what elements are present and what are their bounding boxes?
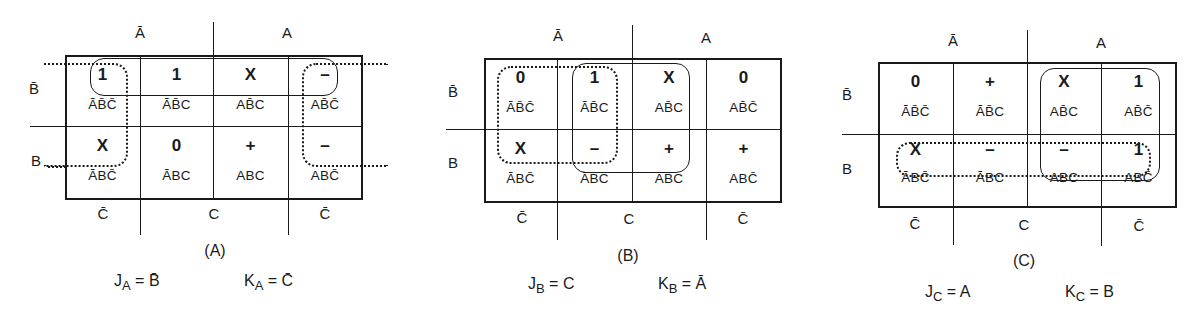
row-not-b-label: B̄: [827, 86, 867, 103]
eq-rhs: A: [960, 283, 971, 300]
equation-j: JC = A: [925, 283, 970, 304]
footer-not-c-left: C̄: [895, 215, 935, 232]
cell-r0c0: 0ĀB̄C̄: [878, 62, 953, 134]
header-a-label: A: [1081, 34, 1121, 51]
group-b: [896, 142, 1151, 177]
kmap-c: Ā A B̄ B 0ĀB̄C̄ +ĀB̄C XAB̄C 1AB̄C̄ XĀBC̄…: [0, 0, 1204, 319]
equation-k: KC = B: [1065, 283, 1114, 304]
footer-not-c-right: C̄: [1119, 217, 1159, 234]
header-divider: [1027, 30, 1028, 64]
row-b-label: B: [827, 160, 867, 177]
eq-lhs: J: [925, 283, 933, 300]
cell-value: 0: [878, 72, 953, 92]
cell-value: +: [953, 72, 1027, 92]
footer-c: C: [1004, 216, 1044, 233]
row-divider-ext: [842, 134, 878, 135]
wrap-line-top-left: [44, 63, 66, 65]
eq-rhs: B: [1103, 283, 1114, 300]
map-caption: (C): [994, 252, 1054, 270]
wrap-line-bottom-left: [48, 166, 66, 168]
eq-sub: C: [933, 289, 942, 304]
header-not-a-label: Ā: [933, 32, 973, 49]
eq-sub: C: [1076, 289, 1085, 304]
eq-lhs: K: [1065, 283, 1076, 300]
cell-term: ĀB̄C: [953, 104, 1027, 120]
cell-term: ĀB̄C̄: [878, 104, 953, 120]
cell-r0c1: +ĀB̄C: [953, 62, 1027, 134]
